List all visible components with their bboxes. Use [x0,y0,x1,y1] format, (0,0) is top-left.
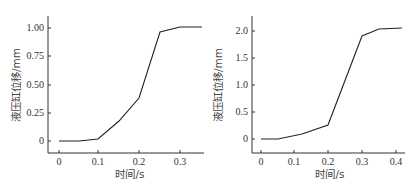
left-x-label: 时间/s [115,168,144,180]
right-ytick-1: 0.5 [236,106,249,117]
right-ytick-4: 2.0 [236,25,249,36]
left-series-line [59,27,202,141]
left-ytick-1: 0.25 [27,107,45,118]
left-chart: 0 0.25 0.50 0.75 1.00 0 0.1 0.2 0.3 时间/s… [10,16,204,180]
left-ytick-0: 0 [39,135,44,146]
charts-canvas: 0 0.25 0.50 0.75 1.00 0 0.1 0.2 0.3 时间/s… [0,0,418,187]
right-series-line [261,28,402,139]
left-xtick-0: 0 [57,156,62,167]
right-x-label: 时间/s [315,168,344,180]
right-ytick-2: 1.0 [236,79,249,90]
left-y-label: 液压缸位移/mm [10,48,22,122]
left-xtick-2: 0.2 [133,156,146,167]
left-xtick-3: 0.3 [174,156,187,167]
right-xtick-1: 0.1 [288,156,301,167]
left-xtick-1: 0.1 [92,156,105,167]
right-xtick-0: 0 [259,156,264,167]
right-ytick-0: 0 [243,133,248,144]
right-ytick-3: 1.5 [236,52,249,63]
left-ytick-4: 1.00 [27,22,45,33]
right-xtick-4: 0.4 [390,156,403,167]
left-ytick-3: 0.75 [27,50,45,61]
right-chart: 0 0.5 1.0 1.5 2.0 0 0.1 0.2 0.3 0.4 时间/s… [212,16,405,180]
left-ytick-2: 0.50 [27,79,45,90]
right-xtick-2: 0.2 [322,156,335,167]
right-xtick-3: 0.3 [356,156,369,167]
right-y-label: 液压缸位移/mm [212,48,224,122]
